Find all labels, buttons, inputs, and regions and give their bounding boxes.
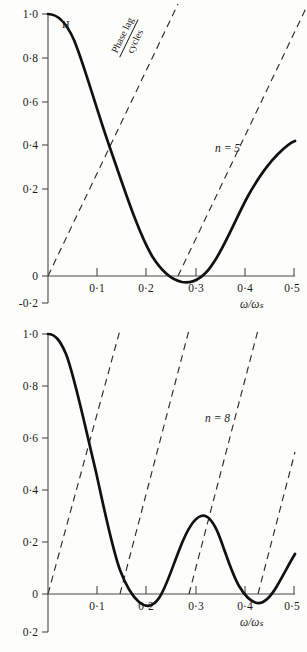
y-label-06: 0·6	[23, 432, 39, 444]
chart-svg-n5: 1·0 0·8 0·6 0·4 0·2 0 -0·2 0·1 0·2 0·3 0…	[0, 0, 307, 322]
x-axis-title: ω/ωₛ	[240, 616, 264, 628]
dashed-phase-lag-lines-n8	[48, 330, 295, 594]
phase-lag-branch-2	[178, 4, 307, 276]
phase-lag-annotation: Phase lag cycles	[108, 14, 149, 63]
y-label-neg02: -0·2	[19, 297, 38, 309]
y-label-10: 1·0	[23, 8, 39, 20]
x-label-03: 0·3	[188, 600, 204, 612]
curve-H-n8	[48, 334, 295, 606]
x-label-04: 0·4	[237, 282, 253, 294]
curve-H-n5	[48, 14, 295, 282]
panel-label-n5: n = 5	[215, 142, 240, 154]
chart-panel-n8: 1·0 0·8 0·6 0·4 0·2 0 0·2 0·1 0·2 0·3 0·…	[0, 322, 307, 652]
y-tick-labels-n5: 1·0 0·8 0·6 0·4 0·2 0 -0·2	[19, 8, 38, 309]
y-label-0: 0	[32, 270, 38, 282]
chart-panel-n5: 1·0 0·8 0·6 0·4 0·2 0 -0·2 0·1 0·2 0·3 0…	[0, 0, 307, 322]
y-label-0: 0	[32, 588, 38, 600]
y-tick-labels-n8: 1·0 0·8 0·6 0·4 0·2 0 0·2	[23, 328, 39, 638]
x-label-05: 0·5	[284, 282, 300, 294]
y-label-08: 0·8	[23, 380, 39, 392]
x-label-02: 0·2	[138, 282, 154, 294]
curve-label-H: H	[62, 19, 70, 30]
y-label-06: 0·6	[23, 96, 39, 108]
x-tick-labels-n8: 0·1 0·2 0·3 0·4 0·5	[89, 600, 300, 612]
x-label-04: 0·4	[237, 600, 253, 612]
y-label-10: 1·0	[23, 328, 39, 340]
x-label-03: 0·3	[188, 282, 204, 294]
x-label-01: 0·1	[89, 282, 105, 294]
y-label-08: 0·8	[23, 52, 39, 64]
y-label-04: 0·4	[23, 484, 39, 496]
axes-n8	[42, 334, 295, 632]
figure-page: 1·0 0·8 0·6 0·4 0·2 0 -0·2 0·1 0·2 0·3 0…	[0, 0, 307, 652]
x-axis-title: ω/ωₛ	[240, 298, 264, 310]
y-label-04: 0·4	[23, 139, 39, 151]
y-label-02: 0·2	[23, 183, 39, 195]
phase-lag-branch-4	[258, 452, 295, 594]
y-label-neg02: 0·2	[23, 626, 39, 638]
panel-label-n8: n = 8	[205, 412, 230, 424]
x-label-05: 0·5	[284, 600, 300, 612]
x-tick-labels-n5: 0·1 0·2 0·3 0·4 0·5	[89, 282, 300, 294]
y-label-02: 0·2	[23, 536, 39, 548]
phase-lag-branch-3	[189, 330, 258, 594]
dashed-phase-lag-lines-n5	[48, 4, 307, 276]
x-label-01: 0·1	[89, 600, 105, 612]
chart-svg-n8: 1·0 0·8 0·6 0·4 0·2 0 0·2 0·1 0·2 0·3 0·…	[0, 322, 307, 652]
phase-lag-branch-1	[48, 330, 120, 594]
